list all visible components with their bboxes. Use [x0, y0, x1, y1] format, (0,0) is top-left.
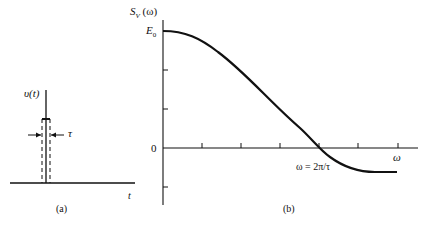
- a-x-label: t: [128, 190, 131, 201]
- b-zero-label: 0: [151, 142, 157, 154]
- arrow-left-icon: [51, 133, 56, 138]
- a-width-label: τ: [68, 127, 72, 139]
- b-spectrum-curve: [163, 31, 397, 172]
- a-caption: (a): [56, 203, 67, 214]
- b-caption: (b): [283, 203, 295, 214]
- b-emax-label: E0: [146, 24, 156, 39]
- b-x-ticks: [202, 143, 398, 148]
- b-y-label: SV (ω): [130, 5, 157, 20]
- a-y-label: υ(t): [24, 87, 39, 99]
- b-emax-sub: 0: [153, 31, 157, 39]
- figure-canvas: [0, 0, 429, 225]
- b-emax-main: E: [146, 24, 153, 36]
- b-zero-crossing-annotation: ω = 2π/τ: [296, 161, 330, 172]
- arrow-right-icon: [36, 133, 41, 138]
- b-y-ticks: [163, 70, 168, 187]
- figure-b: [163, 20, 418, 205]
- b-x-label: ω: [393, 151, 401, 163]
- figure-a: [10, 90, 135, 183]
- b-y-label-arg: (ω): [140, 5, 157, 17]
